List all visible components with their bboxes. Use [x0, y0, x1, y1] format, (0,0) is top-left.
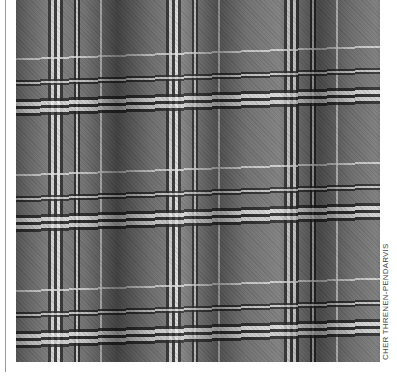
plaid-fabric-photo [16, 0, 380, 362]
fabric-fold-shading [16, 0, 380, 362]
photo-credit: CHER THRENEN-PENDARVIS [381, 243, 390, 360]
left-margin-rule [5, 0, 6, 372]
